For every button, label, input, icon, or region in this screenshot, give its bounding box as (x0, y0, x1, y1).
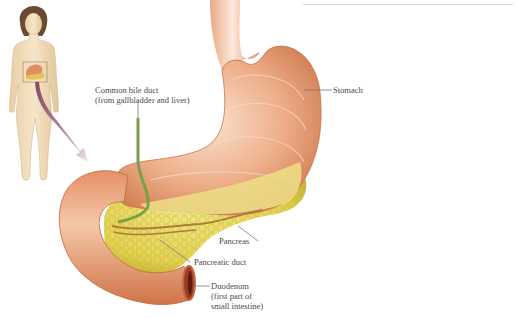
label-pancreas: Pancreas (219, 236, 249, 246)
label-stomach: Stomach (333, 85, 363, 95)
esophagus (210, 0, 260, 70)
figure-body (10, 34, 59, 180)
label-line: small intestine) (211, 301, 263, 311)
label-line: Common bile duct (95, 85, 190, 95)
label-line: Pancreas (219, 236, 249, 246)
anatomy-diagram: Common bile duct (from gallbladder and l… (0, 0, 520, 318)
label-line: Stomach (333, 85, 363, 95)
label-line: (first part of (211, 291, 263, 301)
human-figure (10, 6, 88, 180)
label-pancreatic-duct: Pancreatic duct (194, 257, 246, 267)
label-line: Pancreatic duct (194, 257, 246, 267)
label-common-bile-duct: Common bile duct (from gallbladder and l… (95, 85, 190, 105)
label-line: (from gallbladder and liver) (95, 95, 190, 105)
label-duodenum: Duodenum (first part of small intestine) (211, 281, 263, 311)
figure-head (25, 13, 42, 35)
anatomy-illustration (0, 0, 520, 318)
label-line: Duodenum (211, 281, 263, 291)
